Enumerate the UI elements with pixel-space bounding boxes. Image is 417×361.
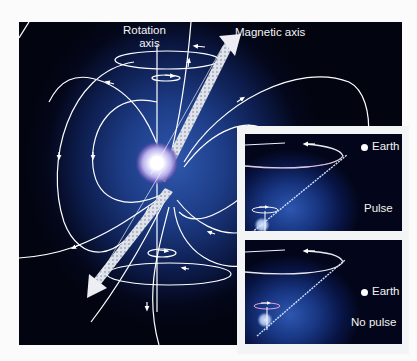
pulse-label: Pulse [364, 202, 393, 214]
magnetic-axis-label: Magnetic axis [235, 26, 305, 39]
no-pulse-label: No pulse [351, 316, 396, 328]
rotation-axis-label: Rotation axis [123, 24, 166, 50]
inset-no-pulse: Earth No pulse [245, 240, 402, 344]
rotation-axis-label-line2: axis [123, 37, 166, 50]
rotation-axis-label-line1: Rotation [123, 24, 166, 37]
earth-label: Earth [372, 285, 400, 297]
corner-field-line [19, 22, 29, 38]
inset-pulse: Earth Pulse [245, 134, 402, 231]
earth-dot-icon [361, 144, 368, 151]
earth-label: Earth [372, 140, 400, 152]
earth-dot-icon [361, 289, 368, 296]
